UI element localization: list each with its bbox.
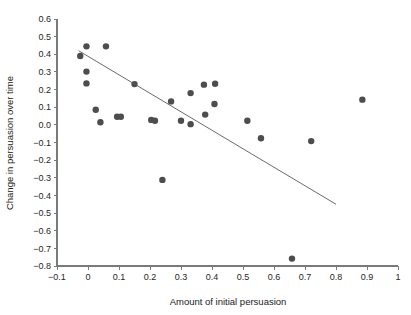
scatter-point <box>93 106 99 112</box>
scatter-point <box>202 111 208 117</box>
y-axis-title: Change in persuasion over time <box>4 76 15 210</box>
y-tick-label: 0.2 <box>38 85 51 95</box>
scatter-point <box>359 96 365 102</box>
x-tick-label: 0.3 <box>175 272 188 282</box>
y-tick-label: 0.3 <box>38 67 51 77</box>
x-tick-label: 0.6 <box>268 272 281 282</box>
x-tick-label: 0.9 <box>361 272 374 282</box>
scatter-point <box>97 119 103 125</box>
y-tick-label: 0.0 <box>38 120 51 130</box>
x-tick-label: 0.8 <box>330 272 343 282</box>
y-tick-label: 0.1 <box>38 102 51 112</box>
x-axis: −0.100.10.20.30.40.50.60.70.80.91 <box>48 266 400 282</box>
x-tick-label: 0.5 <box>237 272 250 282</box>
scatter-point <box>83 68 89 74</box>
scatter-point <box>244 118 250 124</box>
scatter-point <box>83 43 89 49</box>
scatter-point <box>152 118 158 124</box>
y-tick-label: −0.2 <box>33 155 51 165</box>
scatter-point <box>258 135 264 141</box>
x-tick-label: −0.1 <box>48 272 66 282</box>
y-tick-label: −0.3 <box>33 173 51 183</box>
scatter-point <box>118 114 124 120</box>
x-tick-label: 0.4 <box>206 272 219 282</box>
x-tick-label: 0.2 <box>144 272 157 282</box>
scatter-point <box>178 118 184 124</box>
scatter-plot: 0.60.50.40.30.20.10.0−0.1−0.2−0.3−0.4−0.… <box>0 0 411 315</box>
scatter-point <box>289 255 295 261</box>
scatter-point <box>308 138 314 144</box>
y-axis: 0.60.50.40.30.20.10.0−0.1−0.2−0.3−0.4−0.… <box>33 14 57 271</box>
scatter-point <box>83 80 89 86</box>
y-tick-label: −0.4 <box>33 191 51 201</box>
scatter-point <box>187 121 193 127</box>
y-tick-label: 0.4 <box>38 49 51 59</box>
y-tick-label: −0.5 <box>33 208 51 218</box>
scatter-point <box>103 43 109 49</box>
regression-trend-line <box>79 51 336 204</box>
x-tick-label: 0.7 <box>299 272 312 282</box>
scatter-point <box>168 98 174 104</box>
scatter-point <box>159 177 165 183</box>
x-tick-label: 1 <box>395 272 400 282</box>
scatter-point <box>187 90 193 96</box>
y-tick-label: 0.5 <box>38 32 51 42</box>
y-tick-label: −0.6 <box>33 226 51 236</box>
x-tick-label: 0 <box>85 272 90 282</box>
y-tick-label: −0.8 <box>33 261 51 271</box>
scatter-point <box>211 101 217 107</box>
chart-figure: 0.60.50.40.30.20.10.0−0.1−0.2−0.3−0.4−0.… <box>0 0 411 315</box>
x-axis-title: Amount of initial persuasion <box>170 296 287 307</box>
x-tick-label: 0.1 <box>113 272 126 282</box>
y-tick-label: 0.6 <box>38 14 51 24</box>
y-tick-label: −0.1 <box>33 138 51 148</box>
scatter-point <box>77 53 83 59</box>
scatter-point <box>201 81 207 87</box>
scatter-point <box>212 81 218 87</box>
y-tick-label: −0.7 <box>33 244 51 254</box>
